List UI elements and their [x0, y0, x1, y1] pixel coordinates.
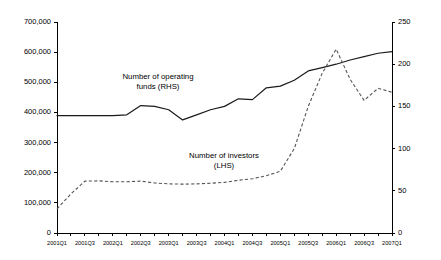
x-tick-label: 2007Q1 [382, 240, 402, 246]
right-tick-label: 0 [398, 228, 402, 237]
right-tick-label: 50 [398, 186, 406, 195]
x-tick-label: 2004Q1 [215, 240, 235, 246]
right-axis-group: 050100150200250 [392, 17, 411, 237]
x-tick-label: 2003Q1 [159, 240, 179, 246]
chart-container: 0100,000200,000300,000400,000500,000600,… [0, 0, 441, 260]
left-tick-label: 0 [47, 228, 51, 237]
left-tick-label: 200,000 [24, 168, 51, 177]
annotation-layer: Number of operatingfunds (RHS)Number of … [122, 72, 259, 170]
right-tick-label: 250 [398, 17, 411, 26]
x-tick-label: 2005Q3 [298, 240, 318, 246]
series-annotation-2-line2: (LHS) [214, 161, 235, 170]
left-axis-ticks: 0100,000200,000300,000400,000500,000600,… [24, 17, 57, 237]
left-tick-label: 600,000 [24, 47, 51, 56]
left-tick-label: 700,000 [24, 17, 51, 26]
x-tick-label: 2006Q1 [326, 240, 346, 246]
left-tick-label: 100,000 [24, 198, 51, 207]
right-tick-label: 150 [398, 101, 411, 110]
right-tick-label: 100 [398, 144, 411, 153]
series-annotation-1: Number of operating [122, 72, 193, 81]
left-tick-label: 500,000 [24, 77, 51, 86]
x-tick-label: 2001Q1 [47, 240, 67, 246]
x-axis-ticks: 2001Q12001Q32002Q12002Q32003Q12003Q32004… [47, 233, 402, 246]
dual-axis-line-chart: 0100,000200,000300,000400,000500,000600,… [0, 0, 441, 260]
right-tick-label: 200 [398, 59, 411, 68]
x-tick-label: 2003Q3 [187, 240, 207, 246]
x-tick-label: 2002Q1 [103, 240, 123, 246]
x-tick-label: 2004Q3 [242, 240, 262, 246]
x-tick-label: 2005Q1 [270, 240, 290, 246]
left-tick-label: 300,000 [24, 138, 51, 147]
x-tick-label: 2006Q3 [354, 240, 374, 246]
series-layer [57, 49, 392, 209]
series-annotation-2: Number of investors [189, 151, 259, 160]
series-annotation-1-line2: funds (RHS) [137, 82, 180, 91]
series-investors [57, 49, 392, 209]
x-tick-label: 2001Q3 [75, 240, 95, 246]
left-axis-group: 0100,000200,000300,000400,000500,000600,… [24, 17, 57, 237]
left-tick-label: 400,000 [24, 107, 51, 116]
x-axis-group: 2001Q12001Q32002Q12002Q32003Q12003Q32004… [47, 233, 402, 246]
x-tick-label: 2002Q3 [131, 240, 151, 246]
right-axis-ticks: 050100150200250 [392, 17, 411, 237]
